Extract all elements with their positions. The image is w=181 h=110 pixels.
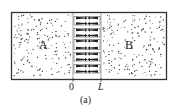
particles-region-b	[102, 15, 165, 77]
region-b-label: B	[125, 39, 133, 51]
region-a-label: A	[39, 39, 48, 51]
length-label: L	[98, 82, 104, 92]
figure-caption: (a)	[80, 95, 91, 105]
origin-label: 0	[69, 82, 74, 92]
